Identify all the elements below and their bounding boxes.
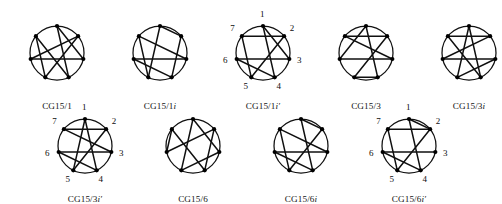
- diagram-circle: [339, 26, 393, 80]
- vertex-label-7: 7: [230, 24, 235, 33]
- vertex-4: [376, 75, 380, 79]
- chord-diagram-cg15-3i: [420, 4, 502, 102]
- vertex-7: [240, 34, 244, 38]
- vertex-2: [179, 34, 183, 38]
- vertex-6: [132, 57, 136, 61]
- chord-3-5: [457, 59, 495, 77]
- chord-1-4: [409, 119, 421, 170]
- vertex-5: [287, 168, 291, 172]
- chord-4-6: [383, 152, 421, 170]
- vertex-label-7: 7: [52, 117, 57, 126]
- chord-diagram-cg15-6: [144, 97, 242, 195]
- chord-2-5: [397, 129, 430, 170]
- chord-4-6: [237, 59, 275, 77]
- vertex-3: [109, 150, 113, 154]
- vertex-6: [235, 57, 239, 61]
- vertex-5: [249, 75, 253, 79]
- vertex-1: [158, 24, 162, 28]
- diagram-cell-cg15-1i-prime: 1234567CG15/1i′: [214, 4, 312, 111]
- caption-cg15-6i: CG15/6i: [285, 195, 317, 204]
- vertex-4: [479, 75, 483, 79]
- vertex-label-2: 2: [290, 24, 295, 33]
- vertex-label-4: 4: [276, 82, 281, 91]
- vertex-1: [55, 24, 59, 28]
- diagram-cell-cg15-3i-prime: 1234567CG15/3i′: [36, 97, 134, 204]
- vertex-label-4: 4: [422, 175, 427, 184]
- chord-4-6: [134, 59, 172, 77]
- diagram-cell-cg15-6i-prime: 1234567CG15/6i′: [360, 97, 458, 204]
- vertex-label-5: 5: [244, 82, 249, 91]
- vertex-label-4: 4: [98, 175, 103, 184]
- vertex-6: [338, 57, 342, 61]
- diagram-cell-cg15-3i: CG15/3i: [420, 4, 502, 111]
- vertex-6: [381, 150, 385, 154]
- chord-diagram-cg15-1i: [111, 4, 209, 102]
- diagram-circle: [30, 26, 84, 80]
- vertex-2: [488, 34, 492, 38]
- vertex-2: [320, 127, 324, 131]
- vertex-label-2: 2: [436, 117, 441, 126]
- chord-2-5: [45, 36, 78, 77]
- vertex-5: [395, 168, 399, 172]
- chord-diagram-cg15-3: [317, 4, 415, 102]
- vertex-7: [343, 34, 347, 38]
- vertex-1: [467, 24, 471, 28]
- vertex-label-5: 5: [66, 175, 71, 184]
- chord-3-5: [181, 152, 219, 170]
- caption-main: CG15/6: [392, 194, 422, 204]
- vertex-5: [179, 168, 183, 172]
- vertex-4: [311, 168, 315, 172]
- vertex-1: [261, 24, 265, 28]
- vertex-7: [170, 127, 174, 131]
- vertex-7: [62, 127, 66, 131]
- vertex-1: [83, 117, 87, 121]
- vertex-7: [386, 127, 390, 131]
- vertex-3: [493, 57, 497, 61]
- vertex-label-3: 3: [119, 149, 124, 158]
- chord-1-3: [193, 119, 219, 152]
- chord-diagram-cg15-6i-prime: 1234567: [360, 97, 458, 195]
- vertex-3: [325, 150, 329, 154]
- chord-diagram-cg15-1: [8, 4, 106, 102]
- diagram-cell-cg15-1: CG15/1: [8, 4, 106, 111]
- vertex-2: [385, 34, 389, 38]
- caption-main: CG15/3: [68, 194, 98, 204]
- vertex-label-1: 1: [260, 10, 265, 19]
- caption-cg15-6i-prime: CG15/6i′: [392, 195, 426, 204]
- vertex-5: [43, 75, 47, 79]
- vertex-label-6: 6: [369, 149, 374, 158]
- vertex-4: [419, 168, 423, 172]
- chord-4-6: [275, 152, 313, 170]
- vertex-2: [282, 34, 286, 38]
- caption-main: CG15/6: [285, 194, 315, 204]
- vertex-label-1: 1: [406, 103, 411, 112]
- vertex-7: [137, 34, 141, 38]
- caption-prime: ′: [424, 194, 426, 204]
- vertex-1: [299, 117, 303, 121]
- vertex-4: [273, 75, 277, 79]
- vertex-1: [407, 117, 411, 121]
- chord-1-6: [340, 26, 366, 59]
- vertex-4: [203, 168, 207, 172]
- diagram-cell-cg15-1i: CG15/1i: [111, 4, 209, 111]
- vertex-3: [433, 150, 437, 154]
- chord-4-6: [59, 152, 97, 170]
- vertex-3: [184, 57, 188, 61]
- vertex-label-1: 1: [82, 103, 87, 112]
- vertex-2: [212, 127, 216, 131]
- vertex-label-2: 2: [112, 117, 117, 126]
- vertex-2: [104, 127, 108, 131]
- vertex-label-3: 3: [443, 149, 448, 158]
- chord-diagram-cg15-6i: [252, 97, 350, 195]
- vertex-label-5: 5: [390, 175, 395, 184]
- vertex-6: [273, 150, 277, 154]
- vertex-2: [428, 127, 432, 131]
- vertex-5: [71, 168, 75, 172]
- vertex-3: [390, 57, 394, 61]
- vertex-3: [81, 57, 85, 61]
- vertex-6: [165, 150, 169, 154]
- vertex-label-3: 3: [297, 56, 302, 65]
- diagram-row-top: CG15/1CG15/1i1234567CG15/1i′CG15/3CG15/3…: [0, 4, 380, 111]
- caption-prime: ′: [100, 194, 102, 204]
